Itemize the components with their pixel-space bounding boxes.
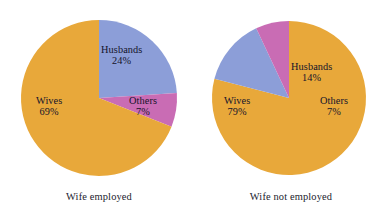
pie-left-label-wives: Wives 69% <box>36 96 62 118</box>
pie-right-label-husbands: Husbands 14% <box>291 62 332 84</box>
pie-right-label-others-value: 7% <box>320 107 348 118</box>
pie-left-label-others-value: 7% <box>129 107 157 118</box>
pie-left-label-others: Others 7% <box>129 96 157 118</box>
pie-right-caption: Wife not employed <box>232 191 350 202</box>
pie-left-label-wives-value: 69% <box>36 107 62 118</box>
pie-left-label-husbands: Husbands 24% <box>101 45 142 67</box>
pie-right-label-husbands-value: 14% <box>291 73 332 84</box>
pie-right-label-wives: Wives 79% <box>224 96 250 118</box>
pie-left-label-husbands-value: 24% <box>101 56 142 67</box>
pie-right-label-others: Others 7% <box>320 96 348 118</box>
pie-left-caption: Wife employed <box>46 191 152 202</box>
pie-chart-figure: Husbands 24% Others 7% Wives 69% Husband… <box>0 0 382 215</box>
pie-right-label-wives-value: 79% <box>224 107 250 118</box>
